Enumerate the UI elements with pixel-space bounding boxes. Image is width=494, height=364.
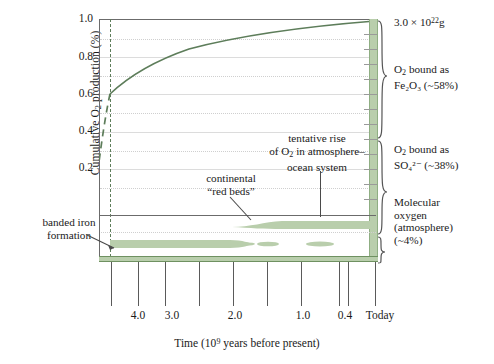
x-axis-title-post: years before present) <box>220 337 319 349</box>
y-tick-label-3: 0.6 <box>53 87 93 99</box>
lower-panel-dotted-line <box>101 232 376 233</box>
x-tick-mark <box>138 262 139 306</box>
x-tick-mark <box>375 262 376 306</box>
so4-post: bound as <box>406 143 449 155</box>
so4-pre: O <box>394 143 402 155</box>
mol-line2: oxygen <box>394 209 453 222</box>
tentative-line1: tentative rise <box>252 132 382 145</box>
x-tick-mark <box>348 262 349 306</box>
fe2o3-reservoir-label: O2 bound as Fe₂O₃ (~58%) <box>394 63 458 92</box>
tentative-pre: of O <box>269 145 289 157</box>
x-tick-mark <box>199 262 200 306</box>
y-tick-label-5: 0.2 <box>53 161 93 173</box>
x-tick-mark <box>165 262 166 306</box>
present-day-baseline-bar <box>99 256 378 262</box>
red-beds-line1: continental <box>178 172 284 185</box>
x-tick-label-2-0: 2.0 <box>215 309 255 321</box>
brace-molecular-oxygen <box>378 237 385 263</box>
so4-label-line2: SO₄²⁻ (~38%) <box>394 159 458 172</box>
mol-line3: (atmosphere) <box>394 221 453 234</box>
bif-lens <box>306 241 334 246</box>
bif-lens <box>257 242 279 247</box>
x-tick-label-3-0: 3.0 <box>152 309 192 321</box>
fe-pre: O <box>394 63 402 75</box>
banded-iron-leader-line <box>86 232 120 254</box>
mass-label-pre: 3.0 × 10 <box>394 16 431 28</box>
fe2o3-label-line1: O2 bound as <box>394 63 458 79</box>
x-tick-label-today: Today <box>357 309 403 321</box>
x-tick-mark <box>111 262 112 306</box>
figure-oxygen-production-chart: Cumulative O2 production (%) 1.0 0.8 0.6… <box>0 0 494 364</box>
tentative-post: in atmosphere– <box>293 145 364 157</box>
x-tick-mark <box>339 262 340 306</box>
fe2o3-label-line2: Fe₂O₃ (~58%) <box>394 79 458 92</box>
bif-line1: banded iron <box>26 216 112 229</box>
brace-fe2o3 <box>378 21 387 138</box>
so4-label-line1: O2 bound as <box>394 143 458 159</box>
curve-solid-segment <box>110 21 375 94</box>
so4-reservoir-label: O2 bound as SO₄²⁻ (~38%) <box>394 143 458 172</box>
tentative-rise-leader-line <box>320 171 321 217</box>
y-tick-label-4: 0.4 <box>53 124 93 136</box>
bif-main-shape <box>110 240 254 248</box>
bif-lens <box>237 242 255 245</box>
mol-line4: (~4%) <box>394 234 453 247</box>
tentative-line2: of O2 in atmosphere– <box>252 145 382 162</box>
x-axis-title: Time (109 years before present) <box>0 337 494 349</box>
red-beds-leader-line <box>229 196 259 222</box>
x-axis-title-pre: Time (10 <box>174 337 216 349</box>
curve-dashed-extrapolation <box>99 94 110 187</box>
red-beds-shape <box>232 221 376 229</box>
molecular-oxygen-label: Molecular oxygen (atmosphere) (~4%) <box>394 196 453 246</box>
y-tick-label-2: 0.8 <box>53 50 93 62</box>
mass-label-unit: g <box>439 16 445 28</box>
mol-line1: Molecular <box>394 196 453 209</box>
x-tick-mark <box>267 262 268 306</box>
x-tick-label-1-0: 1.0 <box>283 309 323 321</box>
total-o2-mass-label: 3.0 × 1022g <box>394 15 445 29</box>
mass-label-exponent: 22 <box>431 16 439 25</box>
tentative-rise-annotation: tentative rise of O2 in atmosphere– ocea… <box>252 132 382 174</box>
red-beds-annotation: continental “red beds” <box>178 172 284 198</box>
x-tick-mark <box>233 262 234 306</box>
x-tick-mark <box>301 262 302 306</box>
y-tick-label-1: 1.0 <box>53 12 93 24</box>
fe-post: bound as <box>406 63 449 75</box>
banded-iron-formation-band <box>104 236 378 256</box>
